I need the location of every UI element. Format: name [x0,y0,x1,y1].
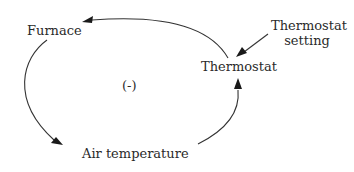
edge-furnace-to-air-temperature [25,40,54,140]
node-furnace: Furnace [27,23,82,38]
arrowhead-thermostat [234,78,242,89]
node-thermostat: Thermostat [201,59,277,74]
arrowhead-setting [236,47,247,57]
edge-air-temperature-to-thermostat [198,90,238,144]
edge-setting-to-thermostat [244,34,268,52]
thermostat-setting-line1: Thermostat [271,18,343,33]
causal-loop-diagram: Furnace Thermostat Thermostat setting Ai… [0,0,354,172]
arrowhead-furnace [82,16,93,23]
node-thermostat-setting: Thermostat setting [271,18,343,48]
edge-thermostat-to-furnace [92,19,228,58]
thermostat-setting-line2: setting [271,33,343,48]
node-air-temperature: Air temperature [82,146,189,161]
loop-polarity-label: (-) [122,78,137,93]
